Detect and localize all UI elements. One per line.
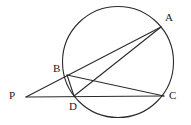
point-label-C: C bbox=[169, 90, 176, 101]
point-label-B: B bbox=[53, 63, 60, 74]
main-circle bbox=[63, 7, 174, 118]
segment-group bbox=[26, 27, 164, 97]
geometry-canvas bbox=[0, 0, 191, 125]
point-label-A: A bbox=[165, 12, 173, 23]
geometry-figure: A B C D P bbox=[0, 0, 191, 125]
point-label-P: P bbox=[9, 90, 15, 101]
segment-BC bbox=[67, 75, 164, 96]
point-label-D: D bbox=[69, 101, 77, 112]
segment-PC bbox=[26, 96, 164, 97]
segment-PA bbox=[26, 27, 161, 97]
